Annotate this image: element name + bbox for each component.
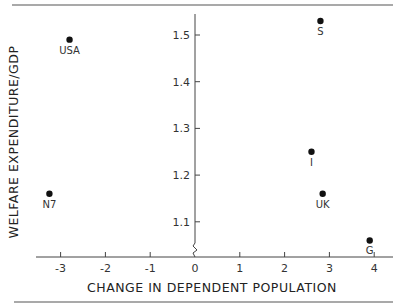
y-tick-label: 1.1 bbox=[173, 216, 191, 229]
y-tick-label: 1.2 bbox=[173, 169, 191, 182]
x-ticks: -3-2-101234 bbox=[55, 252, 378, 275]
data-label-i: I bbox=[310, 157, 313, 168]
data-point-n7 bbox=[46, 191, 52, 197]
x-tick-label: -3 bbox=[55, 262, 66, 275]
data-point-i bbox=[308, 149, 314, 155]
x-tick-label: -1 bbox=[145, 262, 156, 275]
data-label-g: G bbox=[366, 245, 374, 256]
data-point-usa bbox=[66, 36, 72, 42]
y-ticks: 1.11.21.31.41.5 bbox=[173, 29, 201, 229]
x-tick-label: -2 bbox=[100, 262, 111, 275]
data-point-s bbox=[317, 18, 323, 24]
x-tick-label: 4 bbox=[371, 262, 378, 275]
y-tick-label: 1.4 bbox=[173, 76, 191, 89]
y-axis-title: WELFARE EXPENDITURE/GDP bbox=[6, 46, 21, 239]
data-points: USASIUKGN7 bbox=[42, 18, 373, 257]
x-tick-label: 3 bbox=[326, 262, 333, 275]
y-axis-break-icon bbox=[193, 243, 197, 257]
y-tick-label: 1.3 bbox=[173, 122, 191, 135]
y-tick-label: 1.5 bbox=[173, 29, 191, 42]
data-point-g bbox=[367, 237, 373, 243]
data-label-usa: USA bbox=[59, 45, 80, 56]
data-point-uk bbox=[319, 191, 325, 197]
data-label-n7: N7 bbox=[42, 199, 56, 210]
data-label-uk: UK bbox=[316, 199, 330, 210]
x-tick-label: 1 bbox=[236, 262, 243, 275]
x-axis-title: CHANGE IN DEPENDENT POPULATION bbox=[87, 280, 337, 295]
scatter-chart: -3-2-101234 1.11.21.31.41.5 USASIUKGN7 C… bbox=[0, 0, 405, 307]
data-label-s: S bbox=[317, 26, 323, 37]
x-tick-label: 2 bbox=[281, 262, 288, 275]
x-tick-label: 0 bbox=[192, 262, 199, 275]
